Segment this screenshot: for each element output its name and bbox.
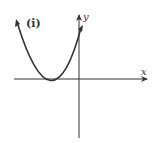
panel-label: (i) xyxy=(26,17,41,30)
graph-figure: (i) y x xyxy=(0,0,156,143)
x-axis-label: x xyxy=(141,66,147,77)
parabola-curve xyxy=(17,22,81,81)
graph-canvas: (i) y x xyxy=(0,0,156,143)
y-axis-label: y xyxy=(82,11,89,22)
